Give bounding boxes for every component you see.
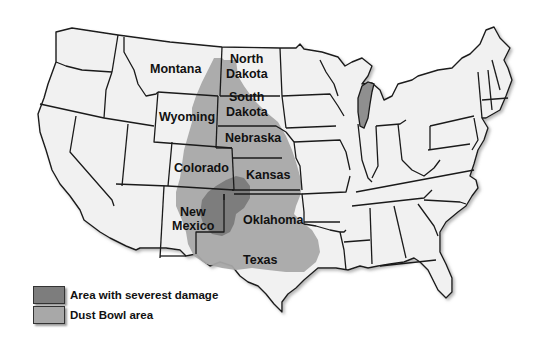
severe-swatch: [33, 286, 65, 304]
label-new-mexico-line2: Mexico: [172, 219, 215, 233]
label-kansas: Kansas: [246, 168, 291, 182]
label-oklahoma: Oklahoma: [243, 213, 304, 227]
legend-label-dust-bowl: Dust Bowl area: [70, 309, 153, 321]
legend: Area with severest damage Dust Bowl area: [33, 285, 218, 325]
legend-item-severe: Area with severest damage: [33, 285, 218, 305]
label-wyoming: Wyoming: [159, 110, 215, 124]
legend-item-dust-bowl: Dust Bowl area: [33, 305, 218, 325]
label-new-mexico-line1: New: [180, 205, 206, 219]
label-south-dakota-line1: South: [229, 90, 264, 104]
label-north-dakota-line1: North: [230, 52, 263, 66]
label-texas: Texas: [243, 253, 278, 267]
label-montana: Montana: [150, 62, 202, 76]
label-nebraska: Nebraska: [225, 131, 282, 145]
legend-label-severe: Area with severest damage: [70, 289, 218, 301]
label-colorado: Colorado: [174, 161, 229, 175]
label-north-dakota-line2: Dakota: [226, 67, 269, 81]
dust-bowl-swatch: [33, 306, 65, 324]
label-south-dakota-line2: Dakota: [226, 105, 269, 119]
